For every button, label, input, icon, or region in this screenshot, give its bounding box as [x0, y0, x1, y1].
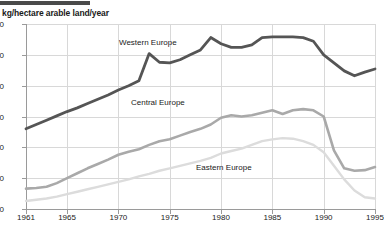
- series-label-eastern-europe: Eastern Europe: [196, 163, 252, 172]
- series-label-central-europe: Central Europe: [131, 98, 185, 107]
- line-central-europe: [26, 109, 375, 189]
- series-label-western-europe: Western Europe: [119, 38, 177, 47]
